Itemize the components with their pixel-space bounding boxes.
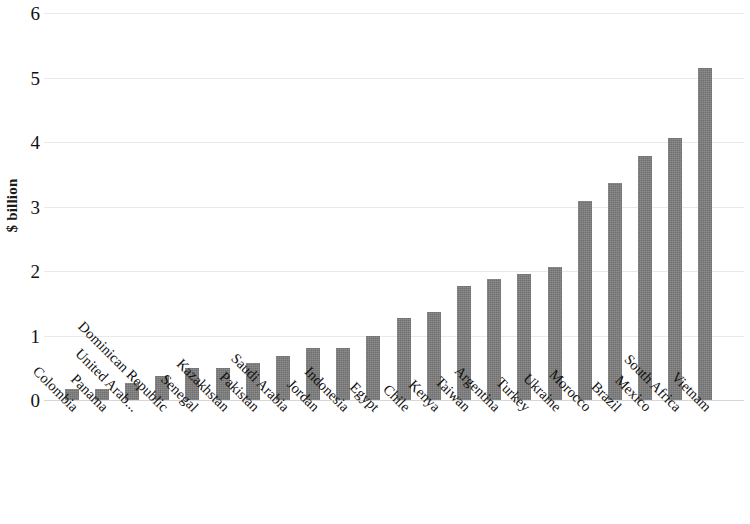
y-axis-tick-labels: 6543210 xyxy=(0,13,40,400)
bar-slot xyxy=(389,13,419,400)
bar-slot xyxy=(177,13,207,400)
bar xyxy=(698,68,712,400)
y-axis-tick-label: 6 xyxy=(4,4,40,23)
bar-slot xyxy=(117,13,147,400)
bar xyxy=(668,138,682,401)
bar-slot xyxy=(479,13,509,400)
bar-slot xyxy=(238,13,268,400)
bar-slot xyxy=(328,13,358,400)
bar xyxy=(578,201,592,400)
bar-chart: $ billion 6543210 ColombiaPanamaUnited A… xyxy=(0,0,750,524)
bar-slot xyxy=(449,13,479,400)
bar-slot xyxy=(539,13,569,400)
y-axis-tick-label: 2 xyxy=(4,262,40,281)
plot-area xyxy=(44,13,744,400)
bar-slot xyxy=(419,13,449,400)
x-axis-tick-labels: ColombiaPanamaUnited Arab...Dominican Re… xyxy=(44,400,744,524)
bar-slot xyxy=(690,13,720,400)
y-axis-tick-label: 5 xyxy=(4,68,40,87)
bar-slot xyxy=(570,13,600,400)
bar-slot xyxy=(358,13,388,400)
bar-series xyxy=(44,13,744,400)
bar-slot xyxy=(147,13,177,400)
bar-slot xyxy=(208,13,238,400)
y-axis-tick-label: 4 xyxy=(4,133,40,152)
bar-slot xyxy=(660,13,690,400)
y-axis-tick-label: 3 xyxy=(4,197,40,216)
bar xyxy=(608,183,622,400)
bar-slot xyxy=(57,13,87,400)
y-axis-tick-label: 0 xyxy=(4,391,40,410)
y-axis-tick-label: 1 xyxy=(4,326,40,345)
bar-slot xyxy=(509,13,539,400)
bar-slot xyxy=(630,13,660,400)
bar-slot xyxy=(600,13,630,400)
bar-slot xyxy=(268,13,298,400)
bar-slot xyxy=(298,13,328,400)
